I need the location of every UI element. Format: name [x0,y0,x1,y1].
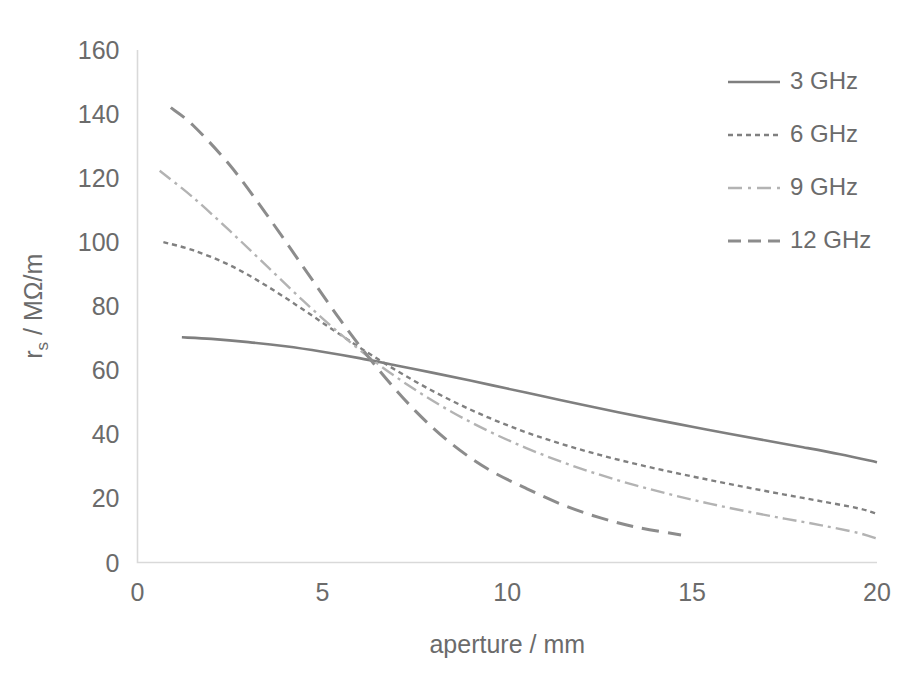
y-tick-label: 160 [78,36,120,64]
x-tick-label: 20 [863,578,891,606]
y-tick-label: 60 [92,356,120,384]
x-tick-label: 5 [315,578,329,606]
x-tick-label: 15 [678,578,706,606]
y-tick-label: 100 [78,228,120,256]
x-axis-title: aperture / mm [429,630,585,658]
y-tick-label: 0 [106,549,120,577]
legend-label-6-ghz: 6 GHz [790,120,858,147]
chart-legend: 3 GHz6 GHz9 GHz12 GHz [728,67,871,253]
y-tick-label: 80 [92,292,120,320]
y-axis-tick-labels: 020406080100120140160 [78,36,120,577]
y-tick-label: 40 [92,420,120,448]
y-tick-label: 140 [78,100,120,128]
data-series [160,108,877,539]
series-line-6-ghz [163,242,877,514]
series-line-3-ghz [182,337,877,462]
legend-label-9-ghz: 9 GHz [790,173,858,200]
x-tick-label: 10 [493,578,521,606]
chart-container: 020406080100120140160 05101520 3 GHz6 GH… [0,0,910,681]
y-tick-label: 20 [92,484,120,512]
y-axis-title: rs / MΩ/m [19,254,52,359]
y-tick-label: 120 [78,164,120,192]
series-line-12-ghz [171,108,681,535]
x-axis-tick-labels: 05101520 [131,578,891,606]
legend-label-3-ghz: 3 GHz [790,67,858,94]
axes [138,50,878,563]
line-chart: 020406080100120140160 05101520 3 GHz6 GH… [0,0,910,681]
legend-label-12-ghz: 12 GHz [790,226,871,253]
axis-lines [138,50,878,563]
x-tick-label: 0 [131,578,145,606]
series-line-9-ghz [160,171,877,539]
